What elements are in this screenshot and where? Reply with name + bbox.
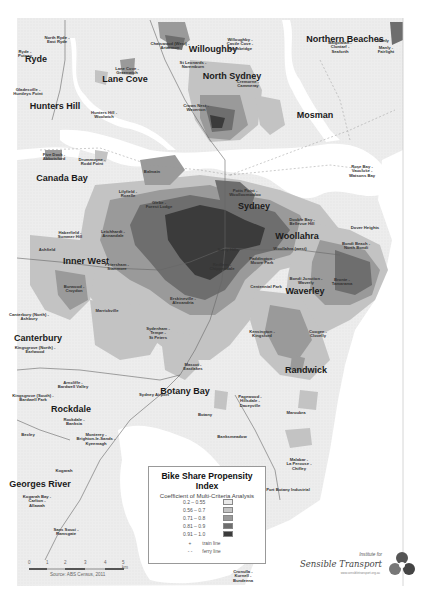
area-label: Ashfield	[39, 248, 56, 252]
area-label: Erskineville - Alexandria	[170, 297, 196, 306]
area-label: Marrickville	[95, 309, 118, 313]
area-label: North Ryde - East Ryde	[44, 36, 69, 45]
area-label: Ryde - Putney	[18, 50, 32, 59]
region-label: Rockdale	[51, 405, 91, 414]
legend: Bike Share Propensity Index Coefficient …	[148, 466, 266, 564]
scale-bar: 0 1 2 3 4 5 km	[28, 560, 128, 580]
area-label: Leichhardt - Annandale	[101, 230, 125, 239]
legend-train-line: + train line	[179, 541, 220, 546]
region-label: Woollahra	[275, 232, 318, 241]
area-label: Willoughby - Castle Cove - Northbridge	[227, 38, 254, 51]
area-label: Woollahra (west)	[273, 247, 306, 251]
area-label: Balgowlah - Clontarf - Seaforth	[328, 41, 352, 54]
area-label: Bondi Junction - Waverly	[289, 277, 322, 286]
source-note: Source: ABS Census, 2011	[50, 572, 105, 577]
region-label: Mosman	[297, 111, 334, 120]
area-label: Cronulla - Kurnell - Bundeena	[233, 570, 253, 583]
area-label: Rockdale - Banksia	[63, 418, 84, 427]
legend-class-4: 0.81 – 0.9	[183, 523, 243, 530]
area-label: Hunters Hill - Woolwich	[91, 111, 117, 120]
legend-swatch	[223, 531, 233, 537]
area-label: St Leonards - Naremburn	[180, 61, 207, 70]
area-label: Kingsgrove (North) - Earlwood	[15, 346, 56, 355]
area-label: Banksmeadow	[217, 435, 246, 439]
area-label: Glebe - Forest Lodge	[146, 201, 173, 210]
legend-class-5: 0.91 – 1.0	[183, 531, 243, 538]
area-label: Sans Souci - Ramsgate	[53, 528, 78, 537]
legend-class-3: 0.71 – 0.8	[183, 515, 243, 522]
area-label: Bexley	[21, 433, 35, 437]
area-label: Dover Heights	[351, 226, 379, 230]
area-label: Potts Point - Woolloomooloo	[229, 189, 261, 198]
area-label: Port Botany Industrial	[266, 488, 310, 492]
ferry-line-symbol: - -	[179, 549, 201, 554]
area-label: Malabar - La Perouse - Chifley	[286, 458, 311, 471]
area-label: Coogee - Clovelly	[309, 330, 327, 339]
area-label: Arncliffe - Bardwell Valley	[58, 381, 89, 390]
region-label: Georges River	[9, 480, 71, 489]
area-label: Balmain	[144, 170, 160, 174]
legend-swatch	[223, 523, 233, 529]
area-label: Redfern - Chippendale	[209, 263, 234, 272]
legend-swatch	[223, 499, 233, 505]
area-label: Surry Hills	[218, 248, 239, 252]
legend-ferry-line: - - ferry line	[179, 549, 221, 554]
area-label: Five Dock - Abbotsford	[43, 153, 66, 162]
legend-class-1: 0.2 – 0.55	[183, 499, 243, 506]
credit-name: Sensible Transport	[300, 559, 382, 569]
region-label: Hunters Hill	[30, 102, 81, 111]
legend-swatch	[223, 515, 233, 521]
area-label: Paddington - Moore Park	[249, 257, 275, 266]
area-label: Crows Nest - Waverton	[183, 104, 209, 113]
legend-swatch	[223, 507, 233, 513]
region-label: Waverley	[285, 287, 324, 296]
legend-title: Bike Share Propensity Index	[149, 471, 265, 491]
area-label: Burwood - Croydon	[64, 285, 85, 294]
area-label: Lane Cove - Greenwich	[115, 67, 139, 76]
area-label: Mascot - Eastlakes	[183, 363, 202, 372]
area-label: Haberfield - Summer Hill	[58, 231, 82, 240]
area-label: Kingsgrove (South) - Bardwell Park	[12, 394, 53, 403]
credit-pre: Institute for	[359, 552, 382, 557]
region-label: Randwick	[285, 366, 327, 375]
area-label: Drummoyne - Rodd Point	[79, 158, 106, 167]
region-label: Lane Cove	[102, 75, 148, 84]
credit-url: www.sensibletransport.org.au	[341, 571, 380, 575]
area-label: Double Bay - Bellevue Hill	[289, 218, 315, 227]
recycle-leaf-logo-icon	[388, 550, 416, 578]
area-label: Chatswood (West) - Artarmon	[150, 42, 189, 51]
region-label: Canterbury	[14, 334, 62, 343]
area-label: Kogarah Bay - Carlton - Allawah	[23, 495, 51, 508]
area-label: Rose Bay - Vaucluse - Watsons Bay	[349, 165, 375, 178]
area-label: Maroubra	[286, 411, 305, 415]
area-label: Sydenham - Tempe - St Peters	[146, 327, 170, 340]
credit-logo-block: Institute for Sensible Transport www.sen…	[330, 550, 420, 580]
area-label: Botany	[198, 413, 212, 417]
area-label: Sydney Airport	[139, 393, 169, 397]
area-label: Centennial Park	[250, 285, 282, 289]
area-label: Manly - Fairlight	[378, 46, 395, 55]
area-label: Manly	[377, 39, 389, 43]
region-label: Inner West	[63, 257, 109, 266]
area-label: Bondi Beach - North Bondi	[342, 242, 370, 251]
area-label: Cremorne - Cammeray	[237, 80, 259, 89]
area-label: Canterbury (North) - Ashbury	[9, 313, 49, 322]
area-label: Kogarah	[56, 469, 73, 473]
area-label: Bronte - Tamarama	[332, 278, 353, 287]
area-label: Kensington - Kingsford	[249, 330, 275, 339]
region-label: Sydney	[238, 202, 270, 211]
area-label: Lilyfield - Rozelle	[119, 190, 137, 199]
train-line-symbol: +	[179, 541, 201, 546]
legend-class-2: 0.56 – 0.7	[183, 507, 243, 514]
area-label: Monterey - Brighton-le-Sands - Kyeemagh	[77, 433, 116, 446]
area-label: Pagewood - Hillsdale - Daceyville	[238, 395, 262, 408]
region-label: Canada Bay	[36, 174, 88, 183]
area-label: Gladesville - Huntleys Point	[13, 88, 42, 97]
area-label: Petersham - Stanmore	[105, 263, 129, 272]
